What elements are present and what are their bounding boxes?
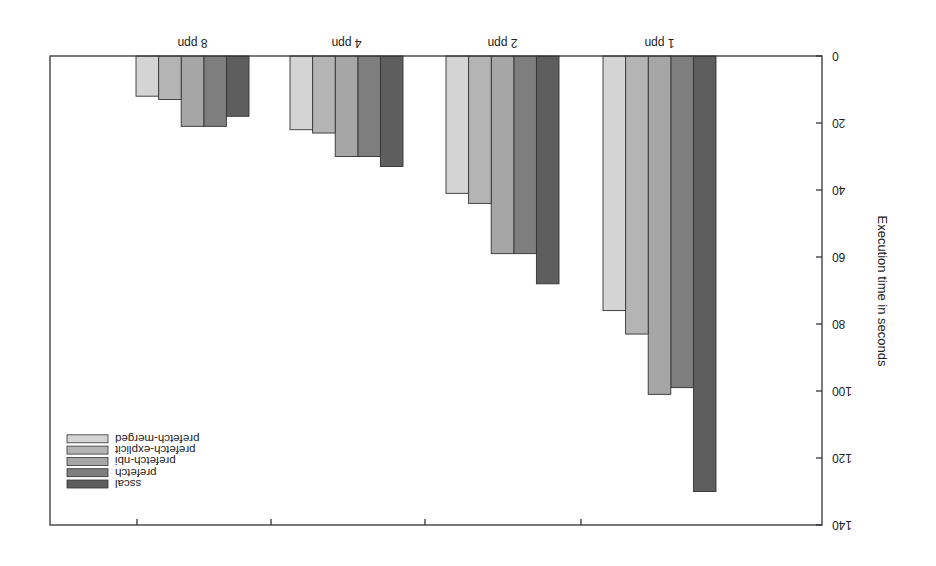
legend-label: prefetch-merged (115, 433, 199, 445)
bar-prefetch-explicit (469, 56, 492, 203)
bar-prefetch-merged (136, 56, 159, 96)
bar-group (446, 56, 559, 284)
bar-sscal (380, 56, 403, 167)
legend-label: prefetch-explicit (114, 444, 195, 456)
bar-prefetch-nbi (491, 56, 514, 254)
legend-swatch (67, 446, 108, 454)
y-tick-label: 40 (832, 183, 846, 197)
legend-label: sscal (115, 478, 141, 490)
bar-sscal (536, 56, 559, 284)
bar-prefetch (204, 56, 227, 126)
bar-sscal (226, 56, 249, 116)
bar-group (136, 56, 249, 126)
y-tick-label: 120 (832, 451, 852, 465)
x-category-label: 2 ppn (487, 36, 517, 50)
y-tick-label: 140 (832, 518, 852, 532)
bar-prefetch (671, 56, 694, 388)
x-category-label: 8 ppn (177, 36, 207, 50)
bars-layer (136, 56, 716, 492)
legend-swatch (67, 457, 108, 465)
bar-prefetch-nbi (181, 56, 204, 126)
y-tick-label: 80 (832, 317, 846, 331)
legend-item: prefetch (67, 467, 157, 479)
legend-swatch (67, 469, 108, 477)
legend-label: prefetch (115, 467, 157, 479)
legend-label: prefetch-nbi (115, 455, 176, 467)
y-tick-label: 60 (832, 250, 846, 264)
bar-prefetch-nbi (648, 56, 671, 394)
legend-item: prefetch-nbi (67, 455, 176, 467)
bar-chart: 020406080100120140 1 ppn2 ppn4 ppn8 ppn … (0, 0, 936, 566)
legend: sscalprefetchprefetch-nbiprefetch-explic… (67, 433, 199, 490)
bar-prefetch-explicit (313, 56, 336, 133)
y-tick-label: 100 (832, 384, 852, 398)
y-tick-label: 0 (832, 49, 839, 63)
bar-prefetch (514, 56, 537, 254)
legend-item: sscal (67, 478, 141, 490)
bar-prefetch (358, 56, 381, 157)
bar-prefetch-merged (603, 56, 626, 311)
legend-item: prefetch-explicit (67, 444, 196, 456)
legend-item: prefetch-merged (67, 433, 199, 445)
bar-prefetch-explicit (626, 56, 649, 334)
legend-swatch (67, 480, 108, 488)
bar-group (603, 56, 716, 492)
y-axis-title: Execution time in seconds (875, 215, 890, 367)
x-category-label: 4 ppn (331, 36, 361, 50)
x-category-label: 1 ppn (644, 36, 674, 50)
bar-sscal (693, 56, 716, 492)
chart-stage: 020406080100120140 1 ppn2 ppn4 ppn8 ppn … (0, 0, 936, 566)
bar-prefetch-explicit (159, 56, 182, 100)
legend-swatch (67, 435, 108, 443)
bar-prefetch-nbi (335, 56, 358, 157)
bar-prefetch-merged (290, 56, 313, 130)
bar-prefetch-merged (446, 56, 469, 193)
bar-group (290, 56, 403, 167)
y-tick-label: 20 (832, 116, 846, 130)
